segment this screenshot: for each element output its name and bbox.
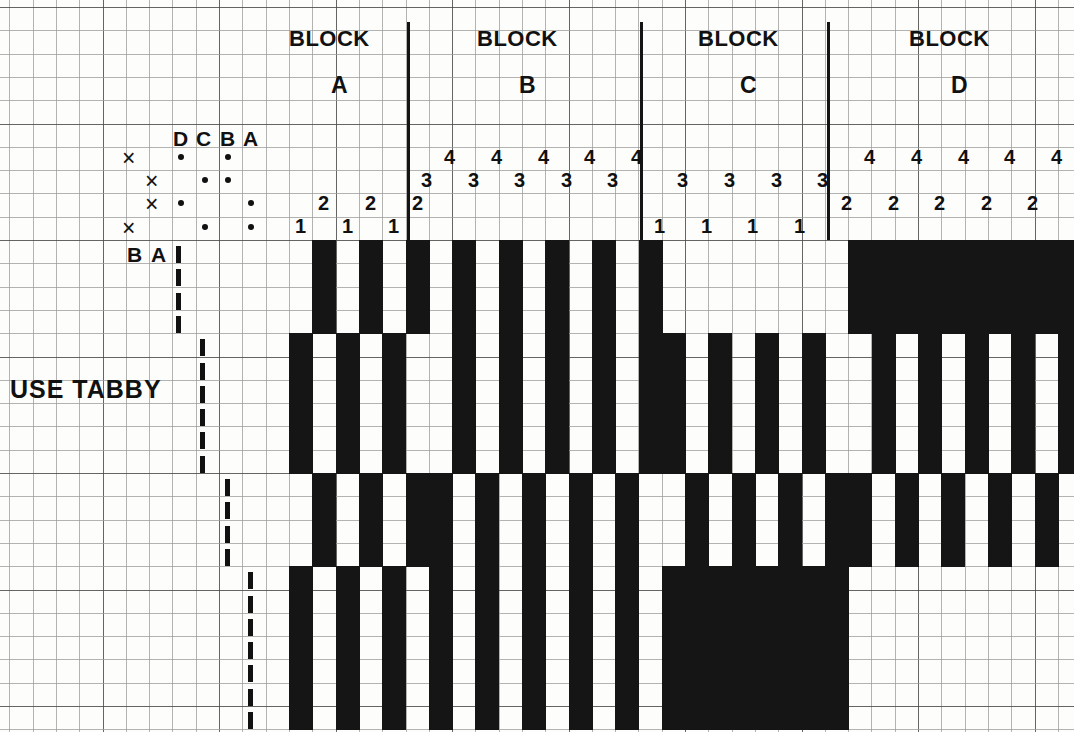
drawdown-cell — [499, 287, 523, 311]
drawdown-cell — [685, 683, 709, 707]
drawdown-cell — [499, 333, 523, 357]
drawdown-cell — [406, 287, 430, 311]
drawdown-cell — [802, 683, 826, 707]
block-divider-a-b — [407, 22, 410, 240]
treadling-tick — [200, 386, 205, 403]
block-c-word: BLOCK — [698, 28, 779, 50]
drawdown-cell — [1011, 333, 1035, 357]
drawdown-cell — [918, 450, 942, 474]
tieup-dot-r3-d — [178, 200, 184, 206]
drawdown-cell — [708, 357, 732, 381]
drawdown-cell — [708, 403, 732, 427]
drawdown-cell — [802, 566, 826, 590]
treadling-tick — [225, 526, 230, 543]
drawdown-cell — [1011, 357, 1035, 381]
threading-number: 1 — [794, 216, 805, 236]
drawdown-cell — [452, 240, 476, 264]
drawdown-cell — [452, 426, 476, 450]
drawdown-cell — [732, 659, 756, 683]
threading-number: 2 — [318, 193, 329, 213]
drawdown-cell — [359, 310, 383, 334]
drawdown-cell — [848, 496, 872, 520]
drawdown-cells — [0, 0, 1090, 740]
drawdown-cell — [336, 426, 360, 450]
drawdown-cell — [1011, 403, 1035, 427]
threading-number: 2 — [412, 193, 423, 213]
drawdown-cell — [336, 613, 360, 637]
drawdown-cell — [685, 543, 709, 567]
drawdown-cell — [1035, 287, 1059, 311]
drawdown-cell — [662, 706, 686, 730]
threading-number: 4 — [864, 147, 875, 167]
drawdown-cell — [825, 566, 849, 590]
drawdown-cell — [965, 450, 989, 474]
drawdown-cell — [778, 659, 802, 683]
drawdown-cell — [872, 357, 896, 381]
treadling-tick — [200, 432, 205, 449]
drawdown-cell — [452, 287, 476, 311]
drawdown-cell — [1011, 426, 1035, 450]
drawdown-cell — [941, 520, 965, 544]
use-tabby-note: USE TABBY — [10, 377, 162, 402]
drawdown-cell — [1035, 473, 1059, 497]
drawdown-cell — [592, 426, 616, 450]
threading-number: 2 — [934, 193, 945, 213]
drawdown-cell — [662, 659, 686, 683]
drawdown-cell — [312, 263, 336, 287]
drawdown-cell — [755, 706, 779, 730]
drawdown-cell — [382, 590, 406, 614]
drawdown-cell — [872, 450, 896, 474]
drawdown-cell — [872, 287, 896, 311]
drawdown-cell — [336, 403, 360, 427]
drawdown-cell — [825, 636, 849, 660]
drawdown-cell — [662, 683, 686, 707]
drawdown-cell — [732, 496, 756, 520]
drawdown-cell — [918, 426, 942, 450]
drawdown-cell — [475, 659, 499, 683]
drawdown-cell — [406, 496, 430, 520]
treadling-tick — [225, 479, 230, 496]
drawdown-cell — [685, 566, 709, 590]
drawdown-cell — [452, 333, 476, 357]
drawdown-cell — [802, 590, 826, 614]
drawdown-cell — [848, 287, 872, 311]
drawdown-cell — [802, 426, 826, 450]
treadle-mark-3-icon: × — [145, 193, 158, 216]
drawdown-cell — [778, 473, 802, 497]
drawdown-cell — [708, 683, 732, 707]
drawdown-cell — [545, 380, 569, 404]
drawdown-cell — [452, 380, 476, 404]
drawdown-cell — [732, 613, 756, 637]
drawdown-cell — [592, 287, 616, 311]
treadling-tick — [248, 665, 253, 682]
drawdown-cell — [988, 496, 1012, 520]
block-d-word: BLOCK — [909, 28, 990, 50]
drawdown-cell — [592, 240, 616, 264]
drawdown-cell — [708, 706, 732, 730]
drawdown-cell — [336, 706, 360, 730]
drawdown-cell — [708, 333, 732, 357]
threading-number: 4 — [911, 147, 922, 167]
drawdown-cell — [708, 426, 732, 450]
drawdown-cell — [615, 706, 639, 730]
drawdown-cell — [685, 636, 709, 660]
drawdown-cell — [522, 659, 546, 683]
treadle-mark-1-icon: × — [122, 147, 135, 170]
drawdown-cell — [662, 636, 686, 660]
drawdown-cell — [685, 706, 709, 730]
tieup-dot-r2-c — [202, 177, 208, 183]
treadling-tick — [248, 596, 253, 613]
drawdown-cell — [289, 566, 313, 590]
drawdown-cell — [825, 543, 849, 567]
drawdown-cell — [522, 543, 546, 567]
drawdown-cell — [802, 380, 826, 404]
threading-number: 2 — [888, 193, 899, 213]
drawdown-cell — [895, 473, 919, 497]
drawdown-cell — [872, 333, 896, 357]
threading-number: 4 — [491, 147, 502, 167]
drawdown-cell — [359, 263, 383, 287]
drawdown-cell — [662, 357, 686, 381]
tieup-dot-r4-c — [202, 224, 208, 230]
threading-number: 4 — [958, 147, 969, 167]
drawdown-cell — [965, 310, 989, 334]
